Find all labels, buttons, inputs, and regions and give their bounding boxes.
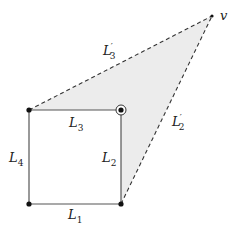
label-L3: L3 [68, 115, 84, 133]
label-L2-prime: L′2 [171, 113, 184, 132]
label-L2: L2 [101, 150, 116, 168]
vertex-bottom-left [26, 201, 31, 206]
label-v: v [220, 8, 228, 23]
label-L4: L4 [8, 150, 24, 168]
vertex-top-left [26, 107, 31, 112]
label-L3-prime: L′3 [102, 42, 116, 61]
vertex-bottom-right [118, 201, 123, 206]
label-L1: L1 [67, 207, 82, 225]
vertex-v [210, 14, 213, 17]
vertex-top-right [118, 107, 123, 112]
diagram-canvas: v L′3 L′2 L3 L2 L4 L1 [0, 0, 241, 231]
